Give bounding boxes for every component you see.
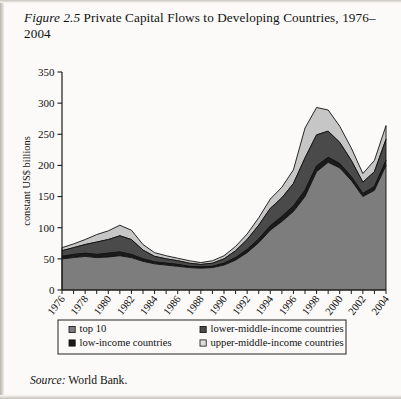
x-tick-label: 1980: [92, 293, 114, 316]
y-tick-label: 50: [44, 253, 56, 265]
x-tick-label: 1986: [161, 293, 183, 316]
legend-label: upper-middle-income countries: [211, 337, 344, 348]
x-tick-label: 1982: [115, 293, 137, 316]
x-tick-label: 2000: [323, 293, 345, 316]
x-tick-label: 2002: [346, 293, 368, 316]
y-tick-label: 100: [38, 222, 55, 234]
legend-swatch: [200, 326, 206, 332]
legend-label: low-income countries: [80, 337, 172, 348]
stacked-area-chart: 0501001502002503003501976197819801982198…: [18, 62, 393, 362]
x-tick-label: 1992: [231, 293, 253, 316]
x-tick-label: 1998: [300, 293, 322, 316]
area-band-top-10: [62, 162, 386, 290]
legend-label: top 10: [80, 323, 107, 334]
figure-page: Figure 2.5 Private Capital Flows to Deve…: [0, 0, 401, 399]
x-tick-label: 1978: [69, 293, 91, 316]
x-tick-label: 1996: [277, 293, 299, 316]
page-edge-left: [0, 0, 4, 399]
x-tick-label: 1976: [45, 293, 67, 316]
x-tick-label: 2004: [369, 293, 391, 317]
chart-canvas: 0501001502002503003501976197819801982198…: [18, 62, 393, 362]
source-note: Source: World Bank.: [30, 374, 127, 387]
y-tick-label: 250: [38, 128, 55, 140]
x-tick-label: 1990: [207, 293, 229, 316]
legend-swatch: [69, 326, 75, 332]
legend-label: lower-middle-income countries: [211, 323, 344, 334]
figure-caption: Figure 2.5 Private Capital Flows to Deve…: [24, 10, 386, 41]
legend-swatch: [69, 340, 75, 346]
source-text: World Bank.: [68, 374, 127, 387]
figure-number: Figure 2.5: [24, 10, 80, 25]
x-tick-label: 1994: [254, 293, 276, 317]
y-axis-title: constant US$ billions: [21, 136, 32, 225]
page-edge-bottom: [0, 395, 401, 399]
y-tick-label: 0: [49, 284, 55, 296]
y-tick-label: 200: [38, 159, 55, 171]
legend-swatch: [200, 340, 206, 346]
y-tick-label: 350: [38, 66, 55, 78]
x-tick-label: 1984: [138, 293, 160, 317]
x-tick-label: 1988: [184, 293, 206, 316]
y-tick-label: 150: [38, 190, 55, 202]
source-label: Source:: [30, 374, 66, 387]
y-tick-label: 300: [38, 97, 55, 109]
page-edge-top: [0, 0, 401, 3]
